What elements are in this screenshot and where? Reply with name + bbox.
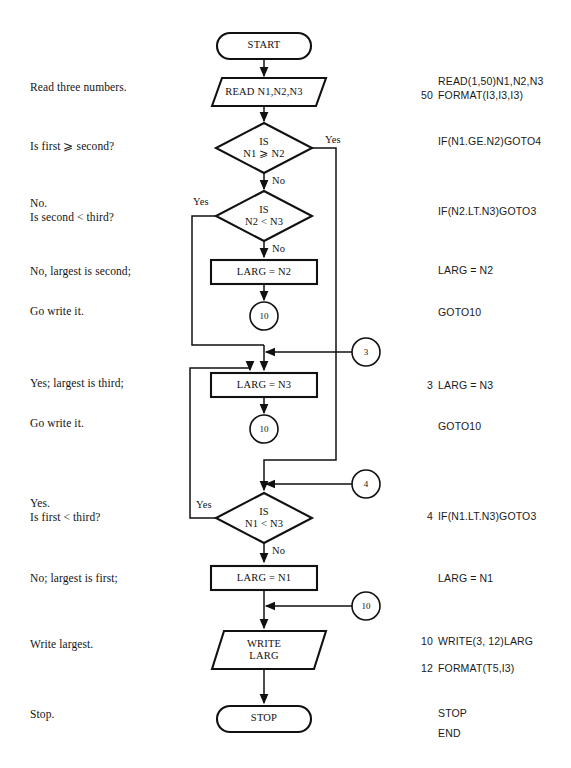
annotation-largest-is-third: Yes; largest is third; [30, 377, 124, 391]
code-text-format-50: FORMAT(I3,I3,I3) [438, 89, 523, 102]
edge-label-no-n2n3: No [272, 243, 285, 254]
code-text-larg-n2: LARG = N2 [438, 264, 493, 277]
connector-10-a [250, 302, 278, 330]
code-label-larg-n3: 3 [415, 379, 433, 392]
code-text-if-n2-lt-n3: IF(N2.LT.N3)GOTO3 [438, 205, 536, 218]
edge-label-no-n1n3: No [272, 545, 285, 556]
node-dec-ge [216, 123, 312, 173]
edge-label-yes-ge: Yes [325, 134, 341, 145]
annotation-go-write-it-1: Go write it. [30, 305, 84, 319]
code-text-if-n1-lt-n3: IF(N1.LT.N3)GOTO3 [438, 510, 536, 523]
code-text-stop-stmt: STOP [438, 707, 467, 720]
code-text-goto10-a: GOTO10 [438, 306, 481, 319]
annotation-stop: Stop. [30, 708, 54, 722]
code-text-larg-n1: LARG = N1 [438, 572, 493, 585]
annotation-read-three-numbers: Read three numbers. [30, 81, 127, 95]
code-text-format-12: FORMAT(T5,I3) [438, 662, 514, 675]
flowchart-page: START READ N1,N2,N3 IS N1 ⩾ N2 IS N2 < N… [0, 0, 571, 768]
code-label-format-12: 12 [415, 662, 433, 675]
annotation-is-first-lt-third: Yes. Is first < third? [30, 497, 100, 524]
node-read [212, 78, 326, 106]
annotation-largest-is-first: No; largest is first; [30, 572, 118, 586]
edge-label-yes-n1n3: Yes [196, 499, 212, 510]
node-stop [217, 706, 311, 732]
node-dec-n1n3 [216, 493, 312, 543]
annotation-write-largest: Write largest. [30, 638, 93, 652]
code-text-if-n1-ge-n2: IF(N1.GE.N2)GOTO4 [438, 135, 541, 148]
node-larg-n3 [211, 373, 317, 397]
annotation-go-write-it-2: Go write it. [30, 417, 84, 431]
annotation-largest-is-second: No, largest is second; [30, 265, 131, 279]
edge-label-yes-n2n3: Yes [193, 196, 209, 207]
code-text-goto10-b: GOTO10 [438, 420, 481, 433]
annotation-is-second-lt-third: No. Is second < third? [30, 197, 114, 224]
code-text-write-stmt: WRITE(3, 12)LARG [438, 635, 533, 648]
code-label-if-n1-lt-n3: 4 [415, 510, 433, 523]
edge-label-no-ge: No [272, 175, 285, 186]
connector-10-b [250, 415, 278, 443]
code-text-end-stmt: END [438, 727, 461, 740]
node-larg-n1 [211, 566, 317, 590]
node-start [217, 33, 311, 59]
node-shapes [211, 33, 326, 732]
node-larg-n2 [211, 260, 317, 284]
code-text-larg-n3: LARG = N3 [438, 379, 493, 392]
connector-4 [352, 470, 380, 498]
code-label-format-50: 50 [415, 89, 433, 102]
connector-3 [352, 338, 380, 366]
annotation-is-first-ge-second: Is first ⩾ second? [30, 140, 114, 154]
node-write [212, 631, 326, 669]
code-text-read-stmt: READ(1,50)N1,N2,N3 [438, 75, 543, 88]
code-label-write-stmt: 10 [415, 635, 433, 648]
node-dec-n2n3 [216, 191, 312, 241]
connector-10-c [352, 592, 380, 620]
